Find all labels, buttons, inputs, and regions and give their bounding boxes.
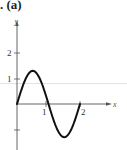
x-tick-label-1: 1 bbox=[42, 107, 47, 117]
y-tick-label-2: 2 bbox=[7, 48, 12, 58]
y-axis-label: y bbox=[14, 17, 19, 26]
y-tick-label-1: 1 bbox=[7, 74, 12, 84]
chart-plot: y x 2 1 1 2 bbox=[0, 0, 127, 150]
x-axis-arrow-icon bbox=[106, 102, 112, 105]
x-tick-label-2: 2 bbox=[81, 107, 86, 117]
y-ticks: 2 1 bbox=[7, 48, 20, 130]
x-axis-label: x bbox=[112, 100, 117, 109]
